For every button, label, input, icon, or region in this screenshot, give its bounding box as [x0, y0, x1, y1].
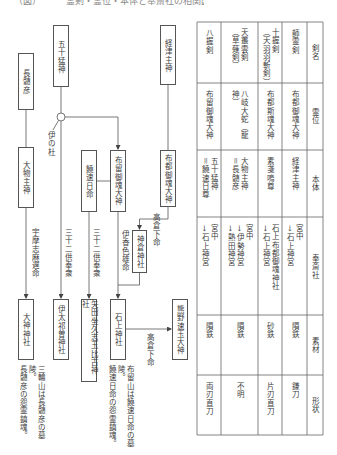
cell-name: 八握剣: [197, 22, 221, 83]
label-inomori: 伊の杜: [46, 131, 55, 156]
header-label: 奉斎社: [311, 254, 320, 279]
node-label: 五十猛神: [57, 40, 66, 73]
cell-name: 天叢雲剣 （草薙剣）: [221, 22, 258, 83]
node-label: 矢田坐久志玉比古神社: [80, 300, 98, 381]
header-label: 霊位: [311, 108, 320, 125]
cell-hontai: 大物主神 ＝長髄彦: [221, 150, 258, 217]
header-label: 素材: [311, 337, 320, 354]
cell-text: 五十猛神 ＝饒速日尊: [200, 157, 218, 198]
node-label: 経津主神: [164, 39, 173, 72]
node-label: 伊太祁曽神社: [57, 305, 66, 355]
cell-material: 隕鉄: [221, 315, 258, 375]
label-kugu-1: 三十二供奉衆: [63, 228, 72, 278]
node-omononushi: 大物主神: [18, 147, 34, 208]
node-isotakeru: 五十猛神: [53, 25, 69, 87]
node-itakiso-jinja: 伊太祁曽神社: [53, 299, 69, 360]
node-label: 大物主神: [22, 161, 31, 194]
header-label: 本体: [311, 175, 320, 192]
node-yata-jinja: 矢田坐久志玉比古神社: [81, 299, 97, 382]
header-material: 素材: [307, 315, 323, 375]
cell-text: 韴霊剣: [290, 29, 299, 54]
node-label: 熊野速玉大神: [176, 305, 185, 355]
inomori-node-circle: [57, 113, 65, 121]
line-kanokura-join: [118, 273, 140, 285]
cell-text: 大物主神 ＝長髄彦: [231, 157, 249, 190]
node-label: 饒速日命: [85, 165, 94, 198]
label-kugu-2: 三十二供奉衆: [91, 228, 100, 278]
note-furu: 布留山は饒速日命の墓陵。 饒速日命の怨霊鎮魂。: [107, 365, 134, 455]
node-futsunushi: 経津主神: [160, 25, 176, 85]
node-kumano: 熊野速玉大神: [172, 299, 188, 360]
cell-material: 隕鉄: [282, 315, 307, 375]
cell-text: 鎌刀: [290, 382, 299, 399]
cell-hontai: 五十猛神 ＝饒速日尊: [197, 150, 221, 217]
inomori-leader-line: [53, 121, 59, 131]
cell-material: 砂鉄: [258, 315, 282, 375]
header-label: 形状: [311, 397, 320, 414]
header-hontai: 本体: [307, 150, 323, 217]
cell-reii: 布都斯魂大神: [258, 83, 282, 150]
header-shape: 形状: [307, 375, 323, 435]
cell-text: 素戔嗚尊: [266, 157, 275, 190]
node-furu-mitama: 布留御魂大神: [110, 150, 126, 212]
cell-reii: 八岐大蛇（龍神）: [221, 83, 258, 150]
cell-text: 片刃直刀: [266, 382, 275, 415]
label-ikagashikoo: 伊香色雄命: [120, 230, 129, 271]
node-label: 布都御魂大神: [164, 154, 173, 204]
cell-name: 韴霊剣: [282, 22, 307, 83]
cell-name: 十握剣 （天羽羽斬剣）: [258, 22, 282, 83]
cell-material: 隕鉄: [197, 315, 221, 375]
cell-hontai: 素戔嗚尊: [258, 150, 282, 217]
cell-text: 砂鉄: [266, 322, 275, 339]
cell-reii: 布留御魂大神: [197, 83, 221, 150]
label-umashimaji: 宇摩志麻遅命: [30, 228, 39, 278]
cell-shrine: 宮中 ↓石上神宮: [197, 217, 221, 315]
cell-text: 隕鉄: [235, 322, 244, 339]
node-nigihayahi: 饒速日命: [81, 150, 97, 212]
node-label: 大神神社: [22, 313, 31, 346]
cell-shape: 両刃直刀: [197, 375, 221, 435]
cell-text: 布都斯魂大神: [266, 90, 275, 140]
cell-text: 隕鉄: [205, 322, 214, 339]
cell-reii: 布都御魂大神: [282, 83, 307, 150]
node-kanokura-jinja: 神倉神社: [132, 230, 147, 273]
node-omiwa-jinja: 大神神社: [18, 299, 34, 360]
cell-text: 布留御魂大神: [205, 90, 214, 140]
cell-text: 隕鉄: [290, 322, 299, 339]
node-futsu-mitama: 布都御魂大神: [160, 150, 176, 207]
node-label: 長髄彦: [22, 69, 31, 94]
cell-shape: 片刃直刀: [258, 375, 282, 435]
node-isonokami-jinja: 石上神社: [110, 299, 126, 360]
cell-text: 宮中 ↓伊勢神宮 ↓熱田神宮: [226, 224, 253, 266]
header-label: 剣名: [311, 44, 320, 61]
cell-text: 天叢雲剣 （草薙剣）: [231, 28, 249, 69]
node-label: 石上神社: [114, 313, 123, 346]
node-label: 布留御魂大神: [114, 156, 123, 206]
arrow-inomori-furu-mitama: [65, 117, 118, 149]
cell-text: 経津主神: [290, 157, 299, 190]
cell-shrine: 宮中 ↓石上神宮: [282, 217, 307, 315]
label-takakuraji-1: 高倉下命: [151, 213, 160, 246]
cell-text: 両刃直刀: [205, 382, 214, 415]
cell-shape: 鎌刀: [282, 375, 307, 435]
node-nagasunehiko: 長髄彦: [18, 53, 34, 110]
cell-text: 石上布都御魂神社 ↓石上神宮: [261, 224, 279, 290]
cell-text: 宮中 ↓石上神宮: [286, 224, 304, 266]
cell-shrine: 石上布都御魂神社 ↓石上神宮: [258, 217, 282, 315]
cell-shrine: 宮中 ↓伊勢神宮 ↓熱田神宮: [221, 217, 258, 315]
cell-text: 八握剣: [205, 29, 214, 54]
cell-text: 宮中 ↓石上神宮: [200, 224, 218, 266]
note-miwa: 三輪山は長髄彦の墓陵。 長髄彦の怨霊鎮魂。: [18, 365, 45, 455]
header-sword-name: 剣名: [307, 22, 323, 83]
cell-shape: 不明: [221, 375, 258, 435]
header-reii: 霊位: [307, 83, 323, 150]
cell-text: 十握剣 （天羽羽斬剣）: [261, 28, 279, 83]
header-shrine: 奉斎社: [307, 217, 323, 315]
cell-text: 不明: [235, 382, 244, 399]
cell-text: 布都御魂大神: [290, 90, 299, 140]
cell-text: 八岐大蛇（龍神）: [231, 90, 249, 150]
label-takakuraji-2: 高倉下命: [145, 333, 154, 366]
cell-hontai: 経津主神: [282, 150, 307, 217]
node-label: 神倉神社: [135, 235, 144, 268]
